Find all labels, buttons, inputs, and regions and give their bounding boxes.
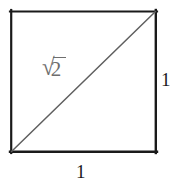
diagonal-length-label: √2 xyxy=(41,56,61,79)
right-side-length-label: 1 xyxy=(161,70,171,89)
bottom-side-length-label: 1 xyxy=(76,162,86,181)
radical-expression: √2 xyxy=(41,56,61,79)
figure-canvas: √2 1 1 xyxy=(0,0,180,189)
diagonal-line xyxy=(12,12,156,152)
radicand-value: 2 xyxy=(51,59,62,80)
square-diagonal-drawing xyxy=(0,0,180,189)
